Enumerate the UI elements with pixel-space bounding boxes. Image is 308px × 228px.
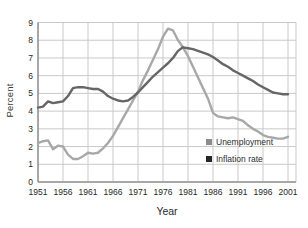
- legend-label-unemployment: Unemployment: [216, 137, 273, 147]
- legend-item-unemployment: Unemployment: [206, 133, 273, 150]
- svg-text:1986: 1986: [204, 187, 223, 197]
- inflation-rate-swatch-icon: [206, 156, 212, 162]
- unemployment-swatch-icon: [206, 139, 212, 145]
- svg-text:8: 8: [28, 35, 33, 45]
- y-axis-title: Percent: [4, 51, 15, 151]
- svg-text:1966: 1966: [104, 187, 123, 197]
- svg-text:1951: 1951: [29, 187, 48, 197]
- svg-text:0: 0: [28, 177, 33, 187]
- svg-text:7: 7: [28, 53, 33, 63]
- svg-text:1976: 1976: [154, 187, 173, 197]
- svg-text:4: 4: [28, 106, 33, 116]
- chart-container: 0123456789195119561961196619711976198119…: [0, 0, 308, 228]
- svg-text:1996: 1996: [254, 187, 273, 197]
- svg-text:1971: 1971: [129, 187, 148, 197]
- svg-text:6: 6: [28, 71, 33, 81]
- svg-text:1961: 1961: [79, 187, 98, 197]
- legend: Unemployment Inflation rate: [206, 133, 273, 167]
- x-axis-title: Year: [38, 205, 296, 217]
- svg-text:1: 1: [28, 159, 33, 169]
- svg-text:2: 2: [28, 142, 33, 152]
- svg-text:1981: 1981: [179, 187, 198, 197]
- svg-text:5: 5: [28, 88, 33, 98]
- legend-label-inflation: Inflation rate: [216, 154, 263, 164]
- legend-item-inflation: Inflation rate: [206, 150, 273, 167]
- svg-text:1956: 1956: [54, 187, 73, 197]
- svg-text:9: 9: [28, 18, 33, 28]
- svg-text:3: 3: [28, 124, 33, 134]
- svg-text:1991: 1991: [229, 187, 248, 197]
- svg-text:2001: 2001: [279, 187, 298, 197]
- line-chart-plot: 0123456789195119561961196619711976198119…: [0, 0, 308, 228]
